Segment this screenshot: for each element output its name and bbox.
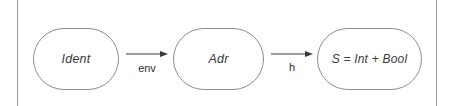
edge-env-label: env [126, 62, 168, 74]
edge-h-label: h [271, 61, 313, 73]
node-adr: Adr [173, 28, 264, 90]
node-adr-label: Adr [208, 52, 228, 66]
diagram-canvas: Ident env Adr h S = Int + Bool [0, 0, 449, 106]
node-s-sum-type: S = Int + Bool [317, 28, 422, 90]
left-margin-rule [17, 0, 18, 106]
right-margin-rule [436, 0, 437, 106]
node-s-label: S = Int + Bool [332, 52, 408, 66]
node-ident-label: Ident [62, 52, 91, 66]
node-ident: Ident [33, 28, 119, 90]
